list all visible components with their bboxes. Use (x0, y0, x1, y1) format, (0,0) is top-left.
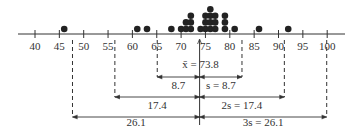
tick-label: 100 (319, 40, 336, 52)
data-dot (134, 26, 141, 33)
arrow-left-icon (72, 115, 77, 119)
data-dot (168, 26, 175, 33)
data-dot (231, 26, 238, 33)
data-dot (207, 6, 214, 13)
arrow-left-icon (157, 75, 162, 79)
dot-plot-chart: 404550556065707580859095100 x̄ = 73.88.7… (0, 0, 356, 127)
arrow-left-icon (200, 95, 205, 99)
data-dot (212, 26, 219, 33)
three-sd-right-label: 3s = 26.1 (243, 116, 284, 127)
two-sd-right-label: 2s = 17.4 (222, 99, 263, 111)
data-dot (188, 19, 195, 26)
x-axis: 404550556065707580859095100 (18, 30, 345, 52)
data-dot (222, 13, 229, 20)
dot-plot-svg: 404550556065707580859095100 x̄ = 73.88.7… (0, 0, 356, 127)
one-sd-left-label: 8.7 (172, 79, 186, 91)
arrow-left-icon (200, 115, 205, 119)
arrow-right-icon (195, 95, 200, 99)
data-dot (256, 26, 263, 33)
data-dot (212, 19, 219, 26)
arrow-right-icon (322, 115, 327, 119)
arrow-right-icon (195, 75, 200, 79)
tick-label: 60 (127, 40, 139, 52)
data-dot (61, 26, 68, 33)
tick-label: 50 (78, 40, 90, 52)
data-dot (212, 13, 219, 20)
arrow-right-icon (195, 115, 200, 119)
tick-label: 75 (200, 40, 212, 52)
data-dot (144, 26, 151, 33)
three-sd-left-label: 26.1 (126, 116, 145, 127)
tick-label: 40 (30, 40, 42, 52)
data-dot (222, 19, 229, 26)
arrow-right-icon (237, 75, 242, 79)
data-dot (285, 26, 292, 33)
tick-label: 85 (249, 40, 261, 52)
one-sd-right-label: s = 8.7 (206, 79, 236, 91)
data-dot (188, 13, 195, 20)
tick-label: 45 (54, 40, 66, 52)
data-dots (61, 6, 292, 32)
arrow-left-icon (200, 75, 205, 79)
arrow-right-icon (279, 95, 284, 99)
tick-label: 95 (297, 40, 309, 52)
arrow-left-icon (115, 95, 120, 99)
data-dot (222, 26, 229, 33)
tick-label: 90 (273, 40, 285, 52)
tick-label: 80 (224, 40, 236, 52)
mean-label: x̄ = 73.8 (182, 58, 219, 70)
data-dot (188, 26, 195, 33)
tick-label: 70 (176, 40, 188, 52)
tick-label: 55 (103, 40, 115, 52)
two-sd-left-label: 17.4 (148, 99, 168, 111)
